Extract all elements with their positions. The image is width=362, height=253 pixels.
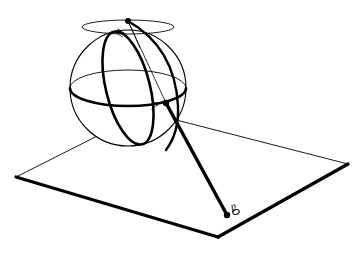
plane-point-marker xyxy=(224,212,230,218)
stereographic-projection-figure: N P p xyxy=(0,0,362,253)
sphere-point-marker xyxy=(163,100,169,106)
label-sphere-point: P xyxy=(150,99,159,113)
figure-canvas: N P p xyxy=(0,0,362,253)
sphere-fill xyxy=(70,30,186,146)
north-pole-point xyxy=(125,18,131,24)
